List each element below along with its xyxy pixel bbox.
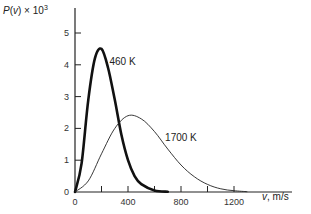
y-tick-label: 4 [64,60,69,70]
y-tick-label: 0 [64,187,69,197]
y-tick-label: 5 [64,28,69,38]
x-ticks: 04008001200 [72,186,244,207]
y-axis-title: P(v) × 103 [3,4,48,16]
x-axis-title: v, m/s [262,191,289,202]
x-tick-label: 800 [173,197,188,207]
y-ticks: 012345 [64,28,81,197]
maxwell-distribution-chart: 012345 04008001200 P(v) × 103 v, m/s 460… [0,0,311,214]
x-tick-label: 0 [72,197,77,207]
x-tick-label: 1200 [224,197,244,207]
y-tick-label: 3 [64,92,69,102]
label-460k: 460 K [109,56,135,67]
y-tick-label: 1 [64,155,69,165]
label-1700k: 1700 K [165,132,197,143]
x-tick-label: 400 [120,197,135,207]
y-tick-label: 2 [64,123,69,133]
series-1700k-curve [75,115,247,192]
